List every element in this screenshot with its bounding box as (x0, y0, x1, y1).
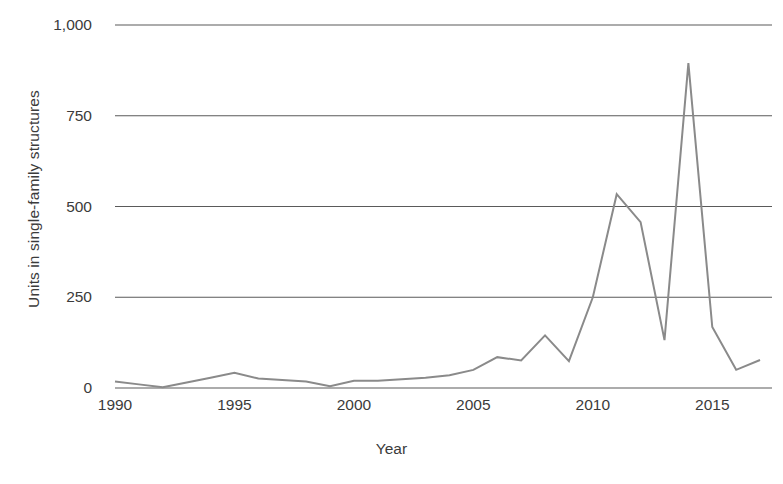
x-tick-label-2015: 2015 (695, 396, 729, 414)
data-series-group (115, 63, 760, 387)
data-line-series (115, 63, 760, 387)
x-tick-label-2000: 2000 (337, 396, 371, 414)
gridlines (115, 25, 772, 388)
line-chart: Units in single-family structures 025050… (0, 0, 783, 484)
x-axis-title: Year (0, 440, 783, 458)
x-tick-label-1990: 1990 (98, 396, 132, 414)
x-tick-label-2010: 2010 (576, 396, 610, 414)
x-tick-label-1995: 1995 (217, 396, 251, 414)
x-tick-label-2005: 2005 (456, 396, 490, 414)
